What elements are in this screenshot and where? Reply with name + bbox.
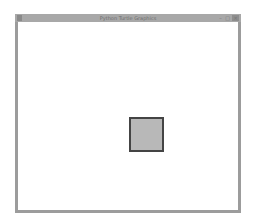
turtle-window: Python Turtle Graphics – □ ✕: [15, 14, 241, 213]
window-title: Python Turtle Graphics: [15, 14, 241, 22]
close-button[interactable]: ✕: [232, 15, 239, 21]
minimize-button[interactable]: –: [218, 15, 223, 21]
turtle-canvas[interactable]: [18, 22, 238, 210]
drawn-square: [129, 117, 164, 152]
maximize-button[interactable]: □: [225, 15, 230, 21]
title-bar[interactable]: Python Turtle Graphics – □ ✕: [15, 14, 241, 22]
window-controls: – □ ✕: [218, 15, 239, 21]
